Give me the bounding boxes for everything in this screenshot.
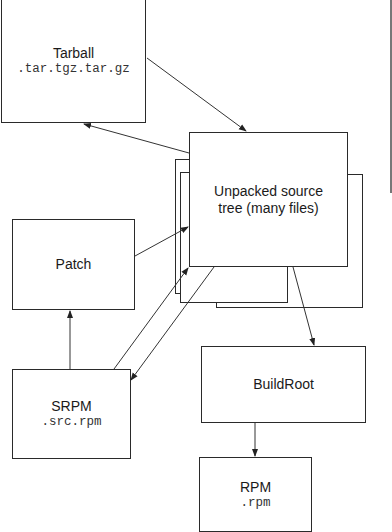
arrow-tarball-to-source: [147, 58, 246, 131]
tarball-title: Tarball: [53, 45, 94, 62]
arrow-source-to-tarball: [84, 124, 189, 153]
patch-node: Patch: [12, 219, 135, 310]
rpm-title: RPM: [240, 479, 271, 496]
tarball-node: Tarball .tar.tgz.tar.gz: [1, 0, 146, 123]
srpm-extension: .src.rpm: [41, 415, 101, 430]
buildroot-node: BuildRoot: [201, 346, 366, 423]
srpm-title: SRPM: [51, 398, 91, 415]
rpm-node: RPM .rpm: [199, 457, 312, 532]
patch-title: Patch: [56, 256, 92, 273]
srpm-node: SRPM .src.rpm: [12, 369, 131, 459]
buildroot-title: BuildRoot: [253, 376, 314, 393]
source-tree-node: Unpacked source tree (many files): [189, 132, 348, 267]
rpm-extension: .rpm: [240, 496, 270, 511]
page-edge-line: [390, 0, 392, 193]
source-tree-title: Unpacked source tree (many files): [214, 183, 324, 217]
tarball-extensions: .tar.tgz.tar.gz: [17, 62, 130, 77]
